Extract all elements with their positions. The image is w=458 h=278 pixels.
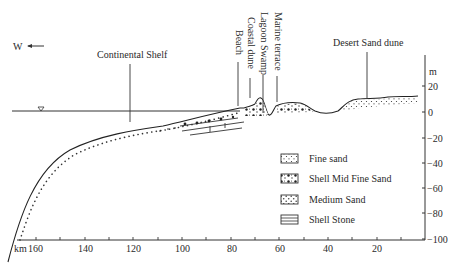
terrace-sand-fill	[276, 104, 314, 113]
svg-text:Medium Sand: Medium Sand	[309, 194, 365, 205]
medium-sand-swatch	[281, 195, 298, 204]
legend-item-medium-sand: Medium Sand	[281, 194, 365, 205]
legend-item-shell-mid-fine-sand: Shell Mid Fine Sand	[281, 173, 392, 184]
x-axis-unit: km	[14, 243, 27, 254]
fine-sand-swatch	[281, 154, 298, 163]
y-tick: −80	[427, 208, 443, 219]
y-tick: 20	[428, 81, 438, 92]
direction-indicator: W	[13, 41, 44, 52]
shell-stone-swatch	[281, 215, 298, 224]
label-beach: Beach	[234, 30, 245, 55]
y-axis: m 20 0 −20 −40 −60 −80 −100	[422, 55, 448, 245]
x-tick: 20	[372, 243, 382, 254]
x-tick: 80	[227, 243, 237, 254]
y-tick: −40	[427, 158, 443, 169]
seabed-sediment-dots	[20, 113, 238, 240]
legend: Fine sand Shell Mid Fine Sand Medium San…	[281, 153, 392, 225]
label-lagoon-swamp: Lagoon Swamp	[259, 12, 270, 75]
svg-text:Shell Stone: Shell Stone	[309, 214, 355, 225]
shell-mid-fine-sand-swatch	[281, 174, 298, 183]
y-tick: −60	[427, 183, 443, 194]
seabed-profile	[8, 108, 240, 262]
x-axis: km 160 140 120 100 80 60 40 20	[14, 237, 425, 254]
svg-text:Shell Mid Fine Sand: Shell Mid Fine Sand	[309, 173, 392, 184]
cross-section-diagram: W Continental Shelf Beach Coastal d	[0, 0, 458, 278]
svg-text:Fine sand: Fine sand	[309, 153, 348, 164]
x-tick: 60	[275, 243, 285, 254]
y-axis-unit: m	[429, 66, 437, 77]
direction-label: W	[13, 41, 23, 52]
left-arrow-icon	[27, 44, 44, 48]
desert-dune-sand-fill	[340, 97, 418, 111]
y-tick: 0	[428, 107, 433, 118]
y-tick: −100	[427, 234, 448, 245]
x-tick: 120	[126, 243, 141, 254]
y-tick: −20	[427, 133, 443, 144]
water-level-triangle-icon	[38, 107, 44, 111]
label-coastal-dune: Coastal dune	[246, 17, 257, 69]
legend-item-shell-stone: Shell Stone	[281, 214, 355, 225]
label-marine-terrace: Marine terrace	[273, 12, 284, 71]
x-tick: 40	[323, 243, 333, 254]
legend-item-fine-sand: Fine sand	[281, 153, 348, 164]
shell-stone-layers	[180, 118, 244, 135]
label-continental-shelf: Continental Shelf	[97, 49, 168, 60]
x-tick: 140	[78, 243, 93, 254]
x-tick: 100	[175, 243, 190, 254]
label-desert-sand-dune: Desert Sand dune	[333, 37, 404, 48]
x-tick: 160	[28, 243, 43, 254]
